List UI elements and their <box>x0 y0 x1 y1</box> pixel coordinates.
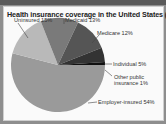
label-individual: Individual 5% <box>113 61 146 67</box>
top-frame-bar <box>0 0 166 5</box>
label-medicare: Medicare 12% <box>97 30 133 36</box>
chart-card: Health insurance coverage in the United … <box>3 6 164 121</box>
label-medicaid: Medicaid 13% <box>65 17 100 23</box>
label-employer-insured: Employer-insured 54% <box>98 99 155 105</box>
label-uninsured: Uninsured 15% <box>14 17 52 23</box>
label-other-public-2: insurance 1% <box>114 80 148 86</box>
